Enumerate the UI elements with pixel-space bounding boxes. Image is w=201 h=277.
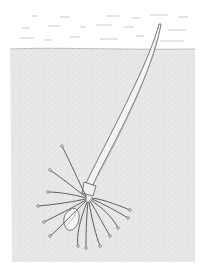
seedling-illustration: [0, 0, 201, 277]
surface-band: [20, 15, 188, 41]
